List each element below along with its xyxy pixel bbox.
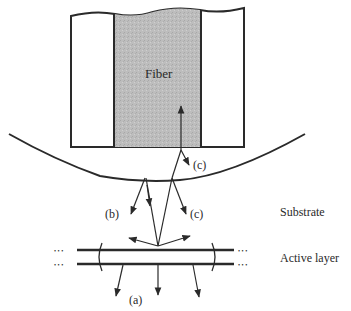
left-dots-bottom: • • •	[54, 262, 63, 268]
substrate-label: Substrate	[280, 205, 325, 219]
label-a: (a)	[129, 293, 142, 307]
label-c-lower: (c)	[190, 207, 203, 221]
active-layer	[77, 243, 234, 271]
diagram-canvas: Fiber (c) (b) (c) • • • • • • • • • • • …	[0, 0, 351, 311]
right-dots-top: • • •	[238, 248, 247, 254]
right-dots-bottom: • • •	[238, 262, 247, 268]
label-c-upper: (c)	[193, 158, 206, 172]
label-b: (b)	[105, 207, 119, 221]
left-dots-top: • • •	[54, 248, 63, 254]
fiber-coupling-diagram: Fiber (c) (b) (c) • • • • • • • • • • • …	[0, 0, 351, 311]
active-layer-label: Active layer	[280, 251, 339, 265]
emission-rays	[129, 178, 190, 246]
fiber-label: Fiber	[145, 66, 173, 81]
